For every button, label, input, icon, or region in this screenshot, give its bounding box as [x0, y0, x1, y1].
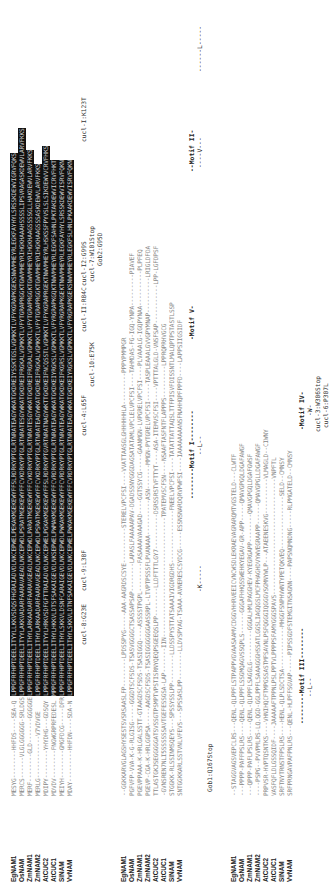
species-name: SlNAM [168, 842, 176, 882]
residue-annotation: --L-- [306, 678, 314, 697]
species-name: SlNAM [58, 842, 66, 882]
alignment-row: AtCUC2PRPVSR-HVPTQSNTKS----VHNIHQCFTMPGS… [262, 0, 270, 892]
mutation-label: cucl-II:R84C [80, 287, 87, 332]
mutation-label: cucl-I:K123T [80, 97, 87, 142]
sequence-segment: SRFPRNGAVPAFPNLRS---QENL-HLPFFSGVAP-----… [286, 451, 294, 796]
alignment-block-3: EgNAM1--STAGGVAGSVEPCLRS---QENL-QLPPFLST… [226, 0, 330, 892]
alignment-row: AtCUC2TTLASTGKJSEGGGGGATSVSSGTPSMPTVPSTI… [152, 0, 160, 892]
alignment-row: SlNAMSRFTNYTRNSTFPSLRS----HENL-QLPLSDCTS… [278, 0, 286, 892]
species-name: EgNAM1 [10, 842, 18, 882]
species-name: ZmNAM1 [246, 842, 254, 882]
mutation-label: cucl-3:W306Stop [314, 376, 321, 432]
alignment-figure: EgNAM1MESYG--------HHFDS----SEA-QLPPGFRF… [0, 0, 332, 892]
species-name: ZmNAM2 [34, 842, 42, 882]
alignment-row: VvNAMMDAY---------HHFDN----SDA-NLPPGFRFH… [66, 0, 74, 892]
sequence-conserved-domain: LPPGFRFHPTDEELITYYLLKKVSDQSFHGRAIADVDLNK… [10, 153, 18, 696]
residue-annotation: -K----- [196, 565, 204, 592]
alignment-row: OsNAMMERCS------VLGLGGGGGG-SRLDGSLPPGFRF… [18, 0, 26, 892]
sequence-unaligned: MDVDV--------FNGWGRPRFEDESL [50, 701, 58, 796]
sequence-conserved-domain: MPPGFRFHPTDEELITHYLHKKVLDTSFSAKAIGEVDLNK… [50, 160, 58, 696]
mutation-label: Gob1:Q167Stop [206, 744, 213, 792]
species-name: ZmNAM1 [136, 842, 144, 882]
alignment-block-1: EgNAM1MESYG--------HHFDS----SEA-QLPPGFRF… [6, 0, 110, 892]
sequence-segment: ---QPPP-PAFLPSLRS----QENL-QLPPFLSAGGLG--… [246, 454, 254, 796]
alignment-row: SlNAMSTGGKK-RLSSINMSQEYS---SPSSYSSLPP---… [168, 0, 176, 892]
alignment-row: ZmNAM1PGEVPPAAA-K-HRLGALSSTT-GTAAGDSCFSD… [136, 0, 144, 892]
species-name: OsNAM [18, 842, 26, 882]
sequence-segment: PGFVFP-VVA-K-G-RLGISG-----GGGDTSCFSDS-TS… [128, 253, 136, 796]
sequence-segment: STGGKK-RLSSINMSQEYS---SPSSYSSLPP--------… [168, 302, 176, 796]
motif-label: -Motif IV- [298, 392, 306, 430]
alignment-row: VvNAMSRFPRNGAVPAFPNLRS---QENL-HLPFFSGVAP… [286, 0, 294, 892]
sequence-unaligned: MDAY---------HHFDN----SDA-N [66, 701, 74, 796]
mutation-label: cucl-7:W101Stop [88, 226, 95, 282]
alignment-row: ZmNAM2----PSPG--PVVPMLRS-LQ.QGD-GGLPPFLS… [254, 0, 262, 892]
sequence-segment: ----PSPG--PVVPMLRS-LQ.QGD-GGLPPFLSAAAGGG… [254, 443, 262, 796]
sequence-conserved-domain: LPPGFRFHPTDEELITHYLARKAADARFAARAVGEADLNK… [26, 150, 34, 696]
alignment-row: EgNAM1MESYG--------HHFDS----SEA-QLPPGFRF… [10, 0, 18, 892]
species-name: OsNAM [238, 842, 246, 882]
sequence-conserved-domain: LPPGFRFHPTDEELITYYLAKKVADARFAARAVAEADLNK… [18, 128, 26, 696]
mutation-label: cucl-4:L65F [80, 395, 87, 436]
sequence-segment: PGEVP-CGA-K-HRLGGPSA-----AAGDSCFSDS-TSAS… [144, 246, 152, 796]
sequence-conserved-domain: LPPGFRFHPTDEELITHYLSKKVLDTNFSAKAIGEVDLNK… [66, 160, 74, 696]
alignment-row: EgNAM1--STAGGVAGSVEPCLRS---QENL-QLPPFLST… [230, 0, 238, 892]
species-name: SlNAM [278, 842, 286, 882]
sequence-conserved-domain: LPPGFRFHPTDEELITHYLARKAADARFAARAVGEADLNK… [34, 164, 42, 696]
alignment-row: SlNAMMEIYH--------GMGFDCG-----DFRLPPGFRF… [58, 0, 66, 892]
alignment-row: OsNAMPGFVFP-VVA-K-G-RLGISG-----GGGDTSCFS… [128, 0, 136, 892]
motif-label: --------Motif I-------- [188, 411, 196, 500]
species-name: EgNAM1 [120, 842, 128, 882]
sequence-segment: --GGKKARVGLAGSHYSESTSVSRSAASLFP--------L… [120, 338, 128, 796]
sequence-segment: VASFQFLDLGSSQIDF----JAAAAAFTPPNLPSLPPTVL… [270, 458, 278, 796]
sequence-segment: SRFTNYTRNSTFPSLRS----HENL-QLPLSDCTSA----… [278, 458, 286, 796]
sequence-segment: -GVNSREN7NLI5SSSSSSAVTGEFESSGSA-LAP-----… [160, 324, 168, 796]
residue-annotation: ----V--- [196, 137, 204, 168]
mutation-label: cucl-6:P307L [322, 383, 329, 428]
alignment-row: ZmNAM2PGEVP-CGA-K-HRLGGPSA-----AAGDSCFSD… [144, 0, 152, 892]
alignment-row: OsNAM---PPPP-PAFFPSLRS----QENL-QLPPFLSSG… [238, 0, 246, 892]
alignment-row: ZmNAM1---QPPP-PAFLPSLRS----QENL-QLPPFLSA… [246, 0, 254, 892]
mutation-label: cucl-10:E75K [88, 342, 95, 387]
alignment-row: EgNAM1--GGKKARVGLAGSHYSESTSVSRSAASLFP---… [120, 0, 128, 892]
motif-label: --Motif II- [188, 130, 196, 172]
mutation-label: cucl-9:L38F [80, 550, 87, 591]
sequence-segment: PRPVSR-HVPTQSNTKS----VHNIHQCFTMPGSSASTMF… [262, 429, 270, 796]
residue-annotation: ------L----- [196, 26, 204, 72]
sequence-unaligned: MDIPY--------YHYDHG---GDSQY [42, 701, 50, 796]
motif-label: --------Motif III-------- [298, 628, 306, 724]
sequence-segment: PGEVPPAAA-K-HRLGALSSTT-GTAAGDSCFSDS-TSAS… [136, 250, 144, 796]
sequence-unaligned: MERCS------VLGLGGGGGG-SRLDGS [18, 697, 26, 796]
sequence-conserved-domain: LPPGFRFHPTDEELITHYLSKKVLDSNFCARAIGEVDLNK… [58, 160, 66, 696]
species-name: ZmNAM2 [144, 842, 152, 882]
sequence-segment: --STAGGVAGSVEPCLRS---QENL-QLPPFLSTPAPPVG… [230, 454, 238, 796]
alignment-row: AtCUC1VASFQFLDLGSSQIDF----JAAAAAFTPPNLPS… [270, 0, 278, 892]
species-name: AtCUC1 [270, 842, 278, 882]
alignment-row: AtCUC2MDIPY--------YHYDHG---GDSQYLPPGFRF… [42, 0, 50, 892]
sequence-unaligned: MERLG------------V7VDVGE [34, 711, 42, 796]
sequence-segment: TTLASTGKJSEGGGGGATSVSSGTPSMPTVPSTISRNYQE… [152, 246, 160, 796]
species-name: AtCUC1 [160, 842, 168, 882]
species-name: AtCUC2 [262, 842, 270, 882]
sequence-unaligned: MERF--------GLD-------GGGGGE [26, 697, 34, 796]
alignment-row: ZmNAM2MERLG------------V7VDVGELPPGFRFHPT… [34, 0, 42, 892]
mutation-label: cucl-8:G23E [80, 604, 87, 645]
sequence-unaligned: MEIYH--------GMGFDCG-----DFR [58, 697, 66, 796]
mutation-label: cucl-I2:G99S [80, 241, 87, 286]
sequence-segment: ---PPPP-PAFFPSLRS----QENL-QLPPFLSSGMQAGV… [238, 443, 246, 796]
residue-annotation: --L-- [196, 436, 204, 455]
species-name: EgNAM1 [230, 842, 238, 882]
motif-label: -Motif V- [188, 305, 196, 340]
species-name: VvNAM [176, 842, 184, 882]
alignment-row: ZmNAM1MERF--------GLD-------GGGGGELPPGFR… [26, 0, 34, 892]
species-name: ZmNAM2 [254, 842, 262, 882]
alignment-row: AtCUC1-GVNSREN7NLI5SSSSSSAVTGEFESSGSA-LA… [160, 0, 168, 892]
mutation-label: Gob2:G95D [96, 232, 103, 266]
species-name: ZmNAM1 [26, 842, 34, 882]
sequence-segment: SNTGGKKARLSSTVNLVFEVS---SPSSASLPP-------… [176, 320, 184, 796]
species-name: AtCUC2 [152, 842, 160, 882]
species-name: AtCUC2 [42, 842, 50, 882]
alignment-block-2: EgNAM1--GGKKARVGLAGSHYSESTSVSRSAASLFP---… [116, 0, 220, 892]
residue-annotation: -W- [306, 404, 314, 416]
alignment-row: AtCUC1MDVDV--------FNGWGRPRFEDESLMPPGFRF… [50, 0, 58, 892]
